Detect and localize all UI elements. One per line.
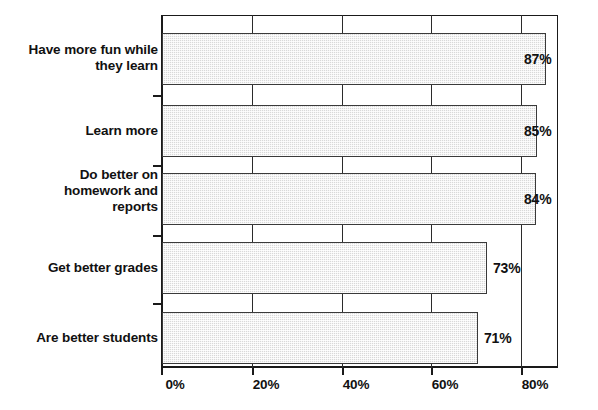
bar-do-better-homework: [162, 173, 536, 225]
bar-value-learn-more: 85%: [524, 123, 551, 139]
bar-have-more-fun: [162, 33, 546, 85]
bar-value-have-more-fun: 87%: [524, 51, 551, 67]
bar-value-are-better-students: 71%: [484, 330, 511, 346]
x-tick-20: [252, 368, 254, 375]
bar-label-do-better-homework: Do better on homework and reports: [64, 167, 158, 215]
bar-label-get-better-grades: Get better grades: [48, 260, 158, 276]
bar-value-do-better-homework: 84%: [524, 191, 551, 207]
x-tick-label-20: 20%: [253, 377, 279, 392]
x-tick-60: [431, 368, 433, 375]
x-tick-40: [342, 368, 344, 375]
x-tick-label-0: 0%: [165, 377, 184, 392]
x-tick-0: [161, 368, 163, 375]
horizontal-bar-chart: Have more fun while they learn 87% Learn…: [0, 0, 598, 410]
x-tick-label-40: 40%: [343, 377, 369, 392]
bar-label-learn-more: Learn more: [85, 123, 158, 139]
bar-label-are-better-students: Are better students: [36, 330, 158, 346]
bar-get-better-grades: [162, 242, 487, 294]
x-tick-80: [521, 368, 523, 375]
x-tick-label-60: 60%: [432, 377, 458, 392]
y-category-tick-1: [153, 95, 162, 97]
bar-label-have-more-fun: Have more fun while they learn: [29, 42, 158, 74]
bar-learn-more: [162, 105, 537, 157]
x-tick-label-80: 80%: [522, 377, 548, 392]
y-category-tick-4: [153, 303, 162, 305]
bar-are-better-students: [162, 312, 478, 364]
bar-value-get-better-grades: 73%: [493, 260, 520, 276]
y-category-tick-3: [153, 235, 162, 237]
